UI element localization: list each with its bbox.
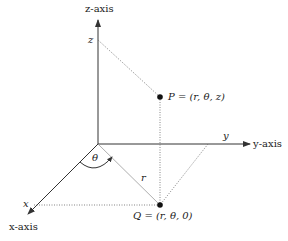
r-label: r [141, 172, 147, 183]
x-axis-line [28, 144, 98, 214]
z-axis-label: z-axis [85, 3, 114, 14]
point-p [157, 94, 163, 100]
theta-label: θ [92, 152, 98, 163]
r-line [98, 144, 160, 205]
z-tick-label: z [87, 34, 94, 45]
y-to-q-dotted-line [160, 144, 208, 205]
x-tick-label: x [23, 198, 29, 209]
point-q [157, 202, 163, 208]
y-axis-label: y-axis [252, 138, 282, 149]
y-tick-label: y [222, 130, 229, 141]
z-to-p-dotted-line [98, 40, 160, 97]
point-p-label: P = (r, θ, z) [167, 91, 225, 102]
x-axis-label: x-axis [9, 221, 38, 232]
cylindrical-coordinates-diagram: z-axis z y-axis y x-axis x P = (r, θ, z)… [0, 0, 288, 241]
point-q-label: Q = (r, θ, 0) [133, 210, 193, 221]
